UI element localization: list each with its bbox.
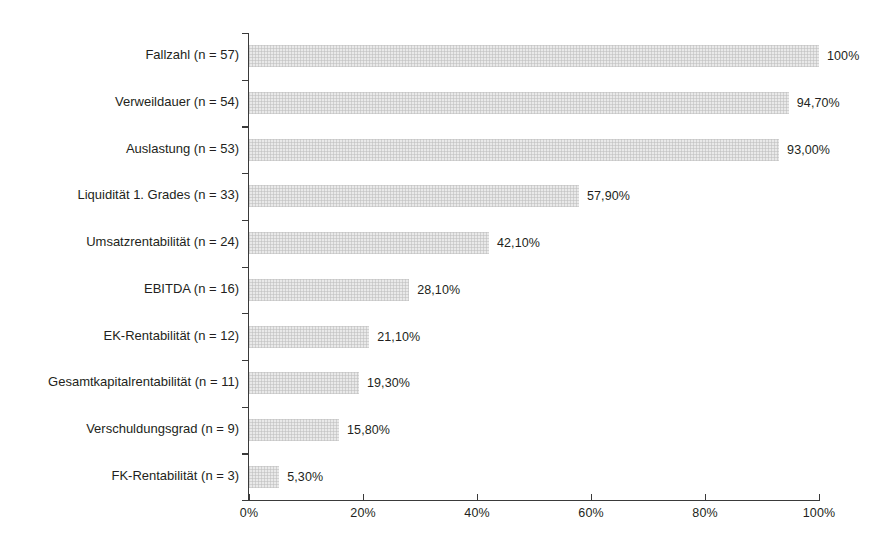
category-label: EBITDA (n = 16) [0, 281, 245, 296]
category-label: FK-Rentabilität (n = 3) [0, 468, 245, 483]
bar-row: 93,00% [249, 139, 819, 161]
bar-row: 100% [249, 45, 819, 67]
bar [249, 139, 779, 161]
y-axis-tick [242, 33, 249, 34]
x-axis-tick-label: 80% [692, 506, 717, 520]
bar [249, 232, 489, 254]
bar-value-label: 21,10% [377, 330, 420, 344]
x-axis-tick [249, 494, 250, 501]
bar [249, 45, 819, 67]
bar-value-label: 15,80% [347, 423, 390, 437]
bar-chart: Fallzahl (n = 57)Verweildauer (n = 54)Au… [0, 0, 890, 555]
bar-row: 21,10% [249, 326, 819, 348]
x-axis-tick-label: 20% [350, 506, 375, 520]
y-axis-tick [242, 80, 249, 81]
x-axis-tick [363, 494, 364, 501]
bar-value-label: 100% [827, 49, 859, 63]
bar-value-label: 19,30% [367, 376, 410, 390]
bar-value-label: 5,30% [287, 470, 323, 484]
y-axis-tick [242, 453, 249, 454]
category-label: Umsatzrentabilität (n = 24) [0, 234, 245, 249]
x-axis-tick-label: 100% [803, 506, 835, 520]
x-axis-tick-label: 40% [464, 506, 489, 520]
category-label: Liquidität 1. Grades (n = 33) [0, 187, 245, 202]
bars-layer: 100%94,70%93,00%57,90%42,10%28,10%21,10%… [249, 33, 819, 500]
bar [249, 419, 339, 441]
bar-row: 94,70% [249, 92, 819, 114]
y-axis-tick [242, 267, 249, 268]
bar-value-label: 57,90% [587, 189, 630, 203]
bar-row: 57,90% [249, 185, 819, 207]
x-axis-tick [477, 494, 478, 501]
bar-value-label: 28,10% [417, 283, 460, 297]
x-axis-tick [819, 494, 820, 501]
bar-value-label: 93,00% [787, 143, 830, 157]
y-axis-tick [242, 126, 249, 127]
bar-row: 19,30% [249, 372, 819, 394]
category-label: Fallzahl (n = 57) [0, 47, 245, 62]
y-axis-tick [242, 173, 249, 174]
bar-row: 28,10% [249, 279, 819, 301]
bar-row: 15,80% [249, 419, 819, 441]
y-axis-tick [242, 220, 249, 221]
x-axis-tick-label: 60% [578, 506, 603, 520]
bar [249, 92, 789, 114]
x-axis-tick [591, 494, 592, 501]
y-axis-tick [242, 407, 249, 408]
x-axis-tick-label: 0% [240, 506, 258, 520]
category-label: Auslastung (n = 53) [0, 141, 245, 156]
y-axis-tick [242, 313, 249, 314]
bar-value-label: 42,10% [497, 236, 540, 250]
bar [249, 185, 579, 207]
category-label: Verweildauer (n = 54) [0, 94, 245, 109]
bar [249, 326, 369, 348]
bar [249, 372, 359, 394]
bar-value-label: 94,70% [797, 96, 840, 110]
bar [249, 466, 279, 488]
category-label: Gesamtkapitalrentabilität (n = 11) [0, 374, 245, 389]
bar-row: 5,30% [249, 466, 819, 488]
x-axis-line [249, 500, 820, 501]
bar [249, 279, 409, 301]
y-axis-tick [242, 360, 249, 361]
category-label: Verschuldungsgrad (n = 9) [0, 421, 245, 436]
category-label: EK-Rentabilität (n = 12) [0, 328, 245, 343]
bar-row: 42,10% [249, 232, 819, 254]
x-axis-tick [705, 494, 706, 501]
y-axis-tick [242, 500, 249, 501]
